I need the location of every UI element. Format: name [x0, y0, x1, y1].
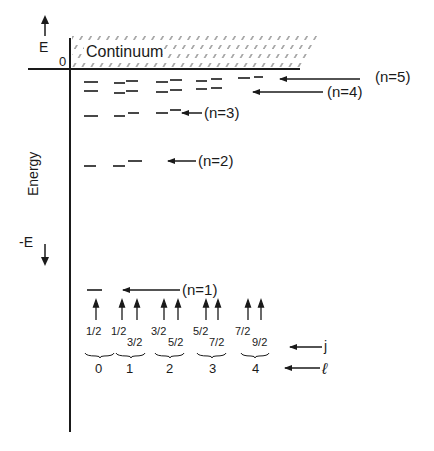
up-arrow-icon	[176, 300, 181, 320]
j-label: 9/2	[252, 336, 267, 348]
j-label: 1/2	[86, 325, 101, 337]
brace-icon	[116, 353, 145, 358]
negative-energy-label: -E	[19, 234, 33, 250]
continuum-region: Continuum	[72, 34, 318, 67]
shell-label-n2: (n=2)	[198, 152, 233, 169]
up-arrow-icon	[94, 300, 99, 320]
brace-icon	[197, 353, 226, 358]
l-label: 2	[166, 361, 173, 376]
shell-label-n3: (n=3)	[204, 104, 239, 121]
up-arrow-icon	[216, 300, 221, 320]
l-row-label: ℓ	[321, 360, 328, 377]
brace-icon	[85, 353, 114, 358]
l-label: 4	[252, 361, 259, 376]
j-label: 3/2	[127, 336, 142, 348]
brace-icon	[241, 353, 269, 358]
j-labels: 1/2 1/2 3/2 3/2 5/2 5/2 7/2 7/2 9/2	[86, 325, 267, 348]
j-label: 5/2	[193, 325, 208, 337]
up-arrow-icon	[259, 300, 264, 320]
positive-energy-arrow-icon	[41, 15, 49, 36]
j-label: 1/2	[111, 325, 126, 337]
j-row-label: j	[323, 338, 327, 354]
up-arrow-icon	[162, 300, 167, 320]
row-arrows	[285, 347, 322, 368]
levels-n4	[84, 88, 222, 93]
levels-n5	[84, 77, 263, 83]
shell-label-n1: (n=1)	[182, 281, 217, 298]
up-arrow-icon	[120, 300, 125, 320]
brace-icon	[155, 353, 184, 358]
continuum-label: Continuum	[86, 43, 163, 60]
j-up-arrows	[94, 300, 264, 320]
l-braces	[85, 353, 269, 358]
levels-n3	[84, 110, 181, 116]
energy-axis-label: Energy	[25, 152, 41, 196]
j-label: 7/2	[235, 325, 250, 337]
j-label: 5/2	[168, 336, 183, 348]
energy-level-diagram: Continuum E 0 Energy -E	[0, 0, 434, 451]
zero-label: 0	[59, 54, 66, 69]
levels-n2	[84, 161, 142, 166]
l-label: 1	[126, 361, 133, 376]
up-arrow-icon	[135, 300, 140, 320]
shell-arrows	[123, 79, 360, 290]
j-label: 3/2	[151, 325, 166, 337]
negative-energy-arrow-icon	[41, 244, 49, 266]
l-label: 0	[95, 361, 102, 376]
shell-label-n5: (n=5)	[375, 68, 410, 85]
up-arrow-icon	[246, 300, 251, 320]
positive-energy-label: E	[39, 39, 48, 55]
j-label: 7/2	[209, 336, 224, 348]
shell-label-n4: (n=4)	[327, 83, 362, 100]
up-arrow-icon	[204, 300, 209, 320]
l-labels: 0 1 2 3 4	[95, 361, 259, 376]
l-label: 3	[209, 361, 216, 376]
